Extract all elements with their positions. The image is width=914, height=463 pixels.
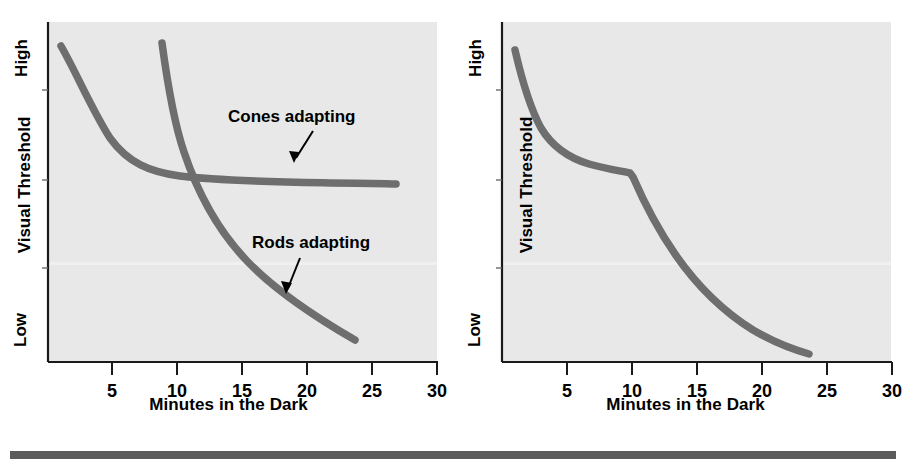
y-axis-title: Visual Threshold — [517, 55, 537, 315]
x-tick-marks — [567, 362, 892, 375]
paper-texture-band — [48, 262, 437, 265]
bottom-divider-rule — [10, 451, 896, 459]
y-axis-title: Visual Threshold — [15, 55, 35, 315]
y-axis-low-label: Low — [465, 304, 485, 356]
plot-background — [48, 22, 437, 362]
right-panel: 5 10 15 20 25 30 Minutes in the Dark Hig… — [457, 0, 914, 430]
x-axis-title: Minutes in the Dark — [457, 395, 914, 415]
cones-annotation-label: Cones adapting — [228, 107, 356, 126]
y-axis-high-label: High — [466, 32, 486, 84]
x-axis-title: Minutes in the Dark — [0, 395, 457, 415]
figure-dark-adaptation: 5 10 15 20 25 30 Cones adapting Rods ada… — [0, 0, 914, 463]
left-panel: 5 10 15 20 25 30 Cones adapting Rods ada… — [0, 0, 457, 430]
x-tick-marks — [112, 362, 437, 375]
left-panel-plot: 5 10 15 20 25 30 Cones adapting Rods ada… — [0, 0, 457, 430]
paper-texture-band — [502, 262, 891, 265]
panel-container: 5 10 15 20 25 30 Cones adapting Rods ada… — [0, 0, 914, 430]
plot-background — [502, 22, 891, 362]
rods-annotation-label: Rods adapting — [252, 233, 370, 252]
